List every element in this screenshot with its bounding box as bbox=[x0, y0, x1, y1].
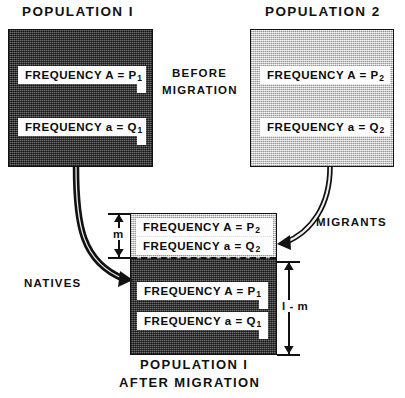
before-migration-note-line1: BEFORE bbox=[172, 67, 227, 79]
lm-dimension-label: l - m bbox=[281, 300, 309, 312]
result-native-frequency-a-text: FREQUENCY a = Q bbox=[144, 315, 256, 327]
population-1-frequency-a-notch bbox=[137, 136, 146, 145]
result-migrant-frequency-A: FREQUENCY A = P2 bbox=[136, 218, 273, 236]
result-migrant-frequency-a: FREQUENCY a = Q2 bbox=[136, 237, 273, 255]
population-1-frequency-A: FREQUENCY A = P1 bbox=[18, 66, 146, 84]
migration-diagram: POPULATION I POPULATION 2 FREQUENCY A = … bbox=[0, 0, 405, 398]
population-2-frequency-A: FREQUENCY A = P2 bbox=[260, 66, 390, 84]
natives-label: NATIVES bbox=[24, 277, 81, 289]
population-2-title: POPULATION 2 bbox=[265, 4, 381, 19]
result-migrant-section: FREQUENCY A = P2 FREQUENCY a = Q2 bbox=[130, 213, 277, 258]
population-2-frequency-a-subscript: 2 bbox=[379, 125, 384, 135]
population-1-title: POPULATION I bbox=[22, 4, 134, 19]
migrants-label: MIGRANTS bbox=[316, 216, 387, 228]
population-2-frequency-A-subscript: 2 bbox=[379, 73, 384, 83]
population-2-frequency-A-text: FREQUENCY A = P bbox=[267, 69, 379, 81]
natives-arrow bbox=[76, 167, 133, 287]
result-migrant-frequency-a-text: FREQUENCY a = Q bbox=[143, 240, 255, 252]
population-1-frequency-a-text: FREQUENCY a = Q bbox=[25, 121, 137, 133]
result-migrant-frequency-A-subscript: 2 bbox=[255, 225, 260, 235]
population-2-frequency-a-text: FREQUENCY a = Q bbox=[267, 121, 379, 133]
migrant-native-divider bbox=[131, 257, 276, 259]
m-bracket-bottom-cap bbox=[108, 257, 131, 259]
result-caption-line2: AFTER MIGRATION bbox=[119, 375, 260, 390]
result-migrant-frequency-A-text: FREQUENCY A = P bbox=[143, 221, 255, 233]
population-1-box: FREQUENCY A = P1 FREQUENCY a = Q1 bbox=[8, 29, 153, 167]
population-1-frequency-A-notch bbox=[137, 84, 146, 93]
migrants-arrow bbox=[277, 167, 330, 250]
result-native-section: FREQUENCY A = P1 FREQUENCY a = Q1 bbox=[130, 258, 277, 355]
result-native-frequency-a-notch bbox=[259, 330, 268, 339]
result-migrant-frequency-a-subscript: 2 bbox=[255, 244, 260, 254]
result-native-frequency-a: FREQUENCY a = Q1 bbox=[137, 312, 268, 330]
population-2-box: FREQUENCY A = P2 FREQUENCY a = Q2 bbox=[250, 29, 394, 167]
population-2-frequency-a: FREQUENCY a = Q2 bbox=[260, 118, 390, 136]
result-native-frequency-A-text: FREQUENCY A = P bbox=[144, 285, 256, 297]
result-native-frequency-a-subscript: 1 bbox=[256, 319, 261, 329]
result-native-frequency-A-notch bbox=[259, 300, 268, 309]
result-native-frequency-A-subscript: 1 bbox=[256, 289, 261, 299]
result-native-frequency-A: FREQUENCY A = P1 bbox=[137, 282, 268, 300]
population-1-frequency-A-text: FREQUENCY A = P bbox=[25, 69, 137, 81]
result-caption-line1: POPULATION I bbox=[140, 357, 248, 372]
population-1-frequency-a-subscript: 1 bbox=[137, 125, 142, 135]
before-migration-note-line2: MIGRATION bbox=[162, 84, 238, 96]
population-1-frequency-a: FREQUENCY a = Q1 bbox=[18, 118, 146, 136]
population-1-frequency-A-subscript: 1 bbox=[137, 73, 142, 83]
m-dimension-label: m bbox=[112, 228, 125, 240]
lm-bracket-bottom-cap bbox=[277, 354, 300, 356]
